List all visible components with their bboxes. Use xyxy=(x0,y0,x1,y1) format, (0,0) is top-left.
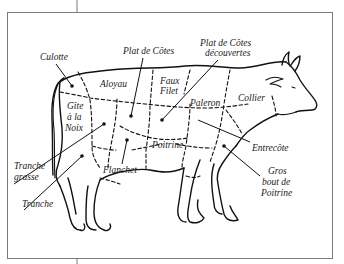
label-entrecote: Entrecôte xyxy=(251,143,289,153)
beef-cuts-diagram: Culotte Plat de Côtes Plat de Côtes déco… xyxy=(0,0,344,264)
label-plat-de-cotes-decouvertes-1: Plat de Côtes xyxy=(199,38,251,48)
label-tranche-grasse-2: grasse xyxy=(14,172,39,182)
label-plat-de-cotes-decouvertes-2: découvertes xyxy=(205,48,251,58)
label-flanchet: Flanchet xyxy=(102,165,137,175)
label-poitrine: Poitrine xyxy=(151,140,183,150)
label-gite-3: Noix xyxy=(64,123,84,133)
label-gros-bout-1: Gros xyxy=(268,166,287,176)
label-gros-bout-3: Poitrine xyxy=(260,188,292,198)
label-culotte: Culotte xyxy=(40,52,68,62)
label-aloyau: Aloyau xyxy=(99,79,127,89)
label-plat-de-cotes: Plat de Côtes xyxy=(122,46,174,56)
label-gros-bout-2: bout de xyxy=(262,177,290,187)
label-gite-2: à la xyxy=(67,112,82,122)
label-tranche-grasse-1: Tranche xyxy=(14,161,45,171)
label-gite-1: Gîte xyxy=(67,101,83,111)
label-collier: Collier xyxy=(238,93,265,103)
label-paleron: Paleron xyxy=(189,98,221,108)
label-faux-filet-1: Faux xyxy=(159,76,180,86)
label-faux-filet-2: Filet xyxy=(159,86,178,96)
label-tranche: Tranche xyxy=(22,199,53,209)
cut-labels: Culotte Plat de Côtes Plat de Côtes déco… xyxy=(14,38,292,209)
